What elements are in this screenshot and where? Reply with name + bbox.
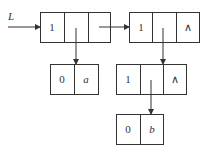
atom-a-tag: 0 — [59, 73, 65, 85]
atom-b: 0 b — [117, 115, 164, 145]
node-n2: 1 ∧ — [130, 13, 200, 43]
atom-a: 0 a — [51, 65, 99, 95]
head-pointer-label: L — [7, 10, 14, 22]
node-n2-tag: 1 — [138, 21, 144, 33]
node-n3-null: ∧ — [171, 73, 179, 85]
node-n3-tag: 1 — [125, 73, 131, 85]
atom-b-tag: 0 — [125, 123, 131, 135]
linked-list-diagram: L 1 1 ∧ 0 a 1 ∧ 0 b — [0, 0, 205, 152]
atom-b-value: b — [149, 123, 155, 135]
node-n2-null: ∧ — [184, 21, 192, 33]
node-n1-tag: 1 — [49, 21, 55, 33]
atom-a-value: a — [83, 73, 89, 85]
